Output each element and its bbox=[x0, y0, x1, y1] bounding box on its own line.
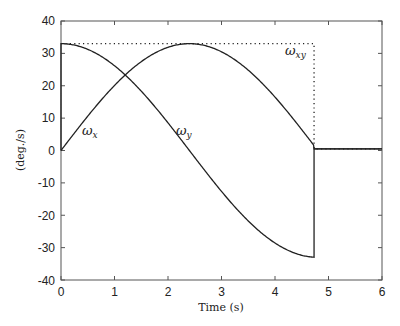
x-tick-label: 0 bbox=[58, 285, 65, 299]
x-tick-label: 2 bbox=[165, 285, 172, 299]
y-tick-label: -40 bbox=[38, 274, 56, 288]
y-tick-label: -10 bbox=[38, 176, 56, 190]
x-tick-labels: 0 1 2 3 4 5 6 bbox=[58, 285, 386, 299]
y-tick-label: -30 bbox=[38, 241, 56, 255]
series-omega-x-line bbox=[61, 44, 382, 258]
x-axis-label: Time (s) bbox=[198, 301, 244, 314]
y-tick-label: 40 bbox=[42, 14, 56, 28]
x-tick-label: 3 bbox=[218, 285, 225, 299]
chart: 40 30 20 10 0 -10 -20 -30 -40 0 1 2 3 4 … bbox=[0, 0, 400, 326]
annotation-omega-y: ωy bbox=[176, 123, 193, 140]
y-tick-label: 30 bbox=[42, 46, 56, 60]
x-tick-label: 6 bbox=[379, 285, 386, 299]
y-axis-label: (deg./s) bbox=[14, 129, 27, 171]
x-tick-label: 4 bbox=[272, 285, 279, 299]
series-omega-y-line bbox=[61, 44, 382, 151]
series-group bbox=[61, 44, 382, 258]
y-tick-label: 10 bbox=[42, 111, 56, 125]
axis-ticks bbox=[61, 21, 382, 280]
y-tick-label: 0 bbox=[48, 144, 55, 158]
y-tick-label: -20 bbox=[38, 209, 56, 223]
y-tick-label: 20 bbox=[42, 79, 56, 93]
annotation-omega-xy: ωxy bbox=[285, 43, 307, 60]
x-tick-label: 5 bbox=[325, 285, 332, 299]
x-tick-label: 1 bbox=[111, 285, 118, 299]
plot-frame bbox=[61, 21, 382, 280]
annotation-omega-x: ωx bbox=[82, 123, 98, 140]
y-tick-labels: 40 30 20 10 0 -10 -20 -30 -40 bbox=[38, 14, 56, 288]
series-omega-xy-line bbox=[61, 44, 382, 149]
